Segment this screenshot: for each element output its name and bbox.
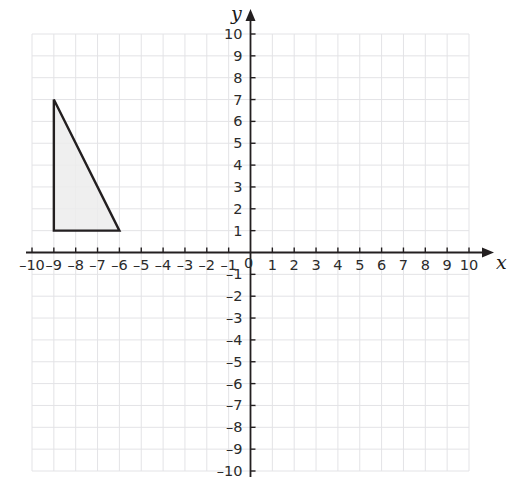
y-tick-label: –2 [226, 288, 242, 304]
y-tick-label: –10 [217, 463, 243, 479]
y-tick-label: –8 [226, 419, 242, 435]
x-tick-label: –9 [46, 257, 62, 273]
y-axis-label: y [230, 2, 242, 24]
x-tick-label: 5 [355, 257, 364, 273]
y-tick-label: –9 [226, 441, 242, 457]
x-tick-label: –3 [177, 257, 193, 273]
x-tick-label: 9 [443, 257, 452, 273]
x-tick-label: –8 [67, 257, 83, 273]
y-axis-arrowhead [246, 9, 256, 21]
y-tick-label: 1 [233, 223, 242, 239]
x-tick-label: –7 [89, 257, 105, 273]
x-tick-label: 8 [421, 257, 430, 273]
y-tick-label: 7 [233, 92, 242, 108]
x-tick-label: 3 [311, 257, 320, 273]
y-tick-label: 6 [233, 113, 242, 129]
y-tick-label: 8 [233, 70, 242, 86]
y-tick-label: 3 [233, 179, 242, 195]
x-tick-label: 4 [333, 257, 342, 273]
y-tick-label: 9 [233, 48, 242, 64]
x-tick-label: –2 [199, 257, 215, 273]
x-tick-label: –6 [111, 257, 127, 273]
x-tick-label: –10 [19, 257, 45, 273]
y-tick-label: –5 [226, 354, 242, 370]
x-tick-label: 2 [290, 257, 299, 273]
x-tick-label: 7 [399, 257, 408, 273]
coordinate-plane-figure: –10–9–8–7–6–5–4–3–2–11234567891010987654… [0, 0, 526, 497]
y-tick-label: –1 [226, 266, 242, 282]
axis-letter-labels: x y 0 [230, 2, 507, 273]
y-tick-label: –7 [226, 397, 242, 413]
origin-label: 0 [244, 255, 253, 271]
y-tick-label: 4 [233, 157, 242, 173]
y-tick-label: 2 [233, 201, 242, 217]
x-tick-label: 6 [377, 257, 386, 273]
x-tick-label: –5 [133, 257, 149, 273]
y-tick-label: 5 [233, 135, 242, 151]
x-tick-label: –4 [155, 257, 171, 273]
x-axis-label: x [496, 251, 507, 273]
y-tick-label: 10 [224, 26, 242, 42]
y-tick-label: –4 [226, 332, 242, 348]
x-tick-label: 1 [268, 257, 277, 273]
y-tick-label: –3 [226, 310, 242, 326]
y-tick-label: –6 [226, 376, 242, 392]
x-tick-label: 10 [460, 257, 478, 273]
axes [26, 9, 494, 477]
x-axis-arrowhead [482, 248, 494, 258]
coordinate-plane-svg: –10–9–8–7–6–5–4–3–2–11234567891010987654… [0, 0, 526, 497]
